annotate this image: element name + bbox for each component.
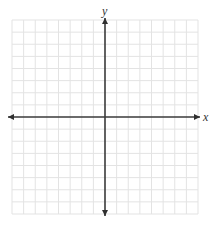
x-axis-arrow-left-icon: [8, 114, 14, 120]
x-axis-arrow-right-icon: [194, 114, 200, 120]
axes: [8, 18, 200, 216]
y-axis-label: y: [101, 4, 108, 18]
y-axis-arrow-up-icon: [102, 18, 108, 24]
y-axis-arrow-down-icon: [102, 210, 108, 216]
coordinate-plane: x y: [0, 0, 214, 232]
x-axis-label: x: [202, 110, 209, 124]
